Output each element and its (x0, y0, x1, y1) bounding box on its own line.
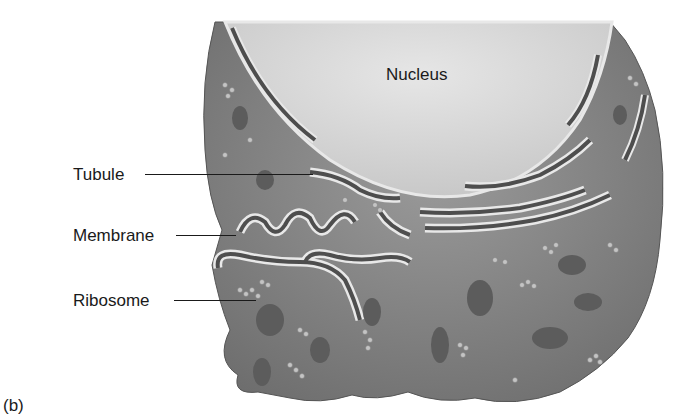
panel-label: (b) (3, 396, 24, 416)
ribosome-label: Ribosome (73, 292, 150, 309)
tubule-label: Tubule (73, 166, 124, 183)
nucleus-label: Nucleus (386, 65, 447, 85)
ribosome-leader-line (174, 300, 256, 301)
rough-er-illustration (0, 0, 679, 419)
er-diagram: Nucleus Tubule Membrane Ribosome (b) (0, 0, 679, 419)
membrane-label: Membrane (73, 227, 154, 244)
membrane-leader-line (176, 235, 236, 236)
tubule-leader-line (145, 174, 313, 175)
